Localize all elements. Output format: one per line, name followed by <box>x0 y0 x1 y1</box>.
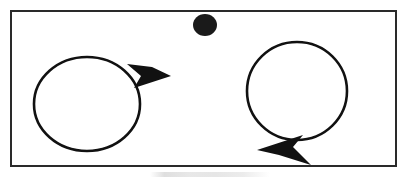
figure-root <box>0 0 409 181</box>
solid-dot-marker <box>193 14 217 36</box>
figure-caption <box>0 168 409 181</box>
figure-canvas <box>0 0 409 181</box>
